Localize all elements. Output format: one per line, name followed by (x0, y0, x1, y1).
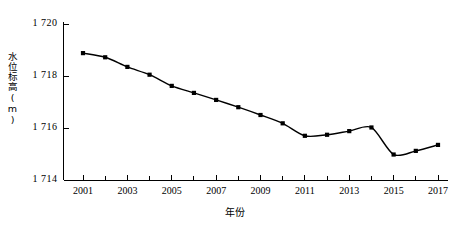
x-axis-tick-label: 2009 (241, 185, 281, 196)
y-axis-tick-label: 1 716 (33, 121, 58, 132)
data-point-marker (303, 134, 307, 138)
data-point-marker (81, 51, 85, 55)
data-series (83, 53, 438, 155)
y-axis-title: 水位标高(m) (4, 52, 18, 125)
y-axis-tick-label: 1 714 (33, 173, 58, 184)
data-point-marker (414, 149, 418, 153)
x-axis-tick-label: 2001 (63, 185, 103, 196)
x-axis-tick-label: 2017 (418, 185, 458, 196)
line-chart-plot (0, 0, 470, 238)
axes (64, 22, 449, 180)
x-axis-tick-label: 2013 (329, 185, 369, 196)
data-point-markers (81, 51, 440, 157)
data-point-marker (325, 133, 329, 137)
data-point-marker (347, 129, 351, 133)
x-axis-tick-label: 2007 (196, 185, 236, 196)
y-axis-tick-label: 1 720 (33, 17, 58, 28)
data-point-marker (147, 73, 151, 77)
x-axis-title: 年份 (0, 204, 470, 219)
data-point-marker (436, 143, 440, 147)
data-point-marker (170, 84, 174, 88)
data-point-marker (258, 113, 262, 117)
axis-ticks (64, 24, 439, 180)
data-point-marker (192, 91, 196, 95)
series-line (83, 53, 438, 155)
data-point-marker (369, 125, 373, 129)
chart-container: 水位标高(m) 年份 1 7201 7181 7161 714 20012003… (0, 0, 470, 238)
data-point-marker (392, 152, 396, 156)
data-point-marker (103, 55, 107, 59)
data-point-marker (214, 98, 218, 102)
x-axis-tick-label: 2011 (285, 185, 325, 196)
x-axis-tick-label: 2003 (107, 185, 147, 196)
y-axis-tick-label: 1 718 (33, 69, 58, 80)
data-point-marker (236, 105, 240, 109)
data-point-marker (125, 65, 129, 69)
x-axis-tick-label: 2015 (374, 185, 414, 196)
data-point-marker (281, 121, 285, 125)
x-axis-tick-label: 2005 (152, 185, 192, 196)
